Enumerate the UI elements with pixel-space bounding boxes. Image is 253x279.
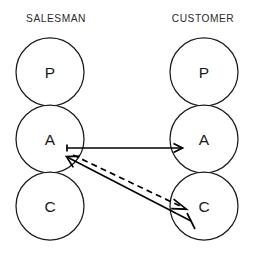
ego-label-customer-child: C (198, 198, 209, 215)
ego-label-salesman-child: C (44, 198, 55, 215)
ego-state-group-salesman: P A C (16, 38, 84, 240)
column-heading-salesman: SALESMAN (26, 13, 86, 24)
ego-label-customer-adult: A (199, 131, 210, 148)
diagram-canvas: SALESMAN CUSTOMER P A C P A C (0, 0, 253, 279)
transaction-arrow-salesman-adult-to-customer-adult[interactable] (67, 144, 183, 153)
transaction-arrow-salesman-adult-to-customer-child[interactable] (73, 155, 186, 209)
column-heading-customer: CUSTOMER (172, 13, 235, 24)
transaction-line-child-to-adult (67, 157, 191, 221)
transaction-diagram: SALESMAN CUSTOMER P A C P A C (0, 0, 253, 279)
ego-label-salesman-adult: A (45, 131, 56, 148)
ego-label-salesman-parent: P (45, 64, 55, 81)
ego-label-customer-parent: P (199, 64, 209, 81)
transaction-line-adult-to-child (73, 155, 180, 206)
